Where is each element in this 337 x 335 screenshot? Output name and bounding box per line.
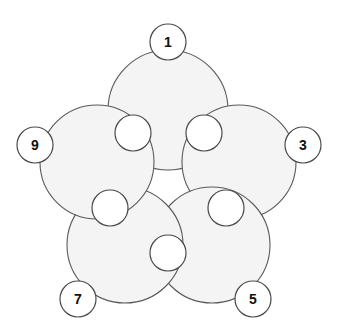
junction-left[interactable] <box>92 190 128 226</box>
rosette-canvas: 1 3 5 7 9 <box>0 0 337 335</box>
label-node-5[interactable]: 5 <box>235 281 271 317</box>
junction-top-right[interactable] <box>186 115 222 151</box>
junction-bottom[interactable] <box>150 235 186 271</box>
label-node-3[interactable]: 3 <box>285 127 321 163</box>
junction-top-left[interactable] <box>115 115 151 151</box>
junction-right[interactable] <box>208 190 244 226</box>
label-node-1[interactable]: 1 <box>150 24 186 60</box>
label-text-5: 5 <box>249 291 257 307</box>
label-text-9: 9 <box>31 137 39 153</box>
label-text-3: 3 <box>299 137 307 153</box>
label-text-1: 1 <box>164 34 172 50</box>
label-node-9[interactable]: 9 <box>17 127 53 163</box>
label-node-7[interactable]: 7 <box>60 281 96 317</box>
label-text-7: 7 <box>74 291 82 307</box>
rosette-diagram: 1 3 5 7 9 <box>0 0 337 335</box>
